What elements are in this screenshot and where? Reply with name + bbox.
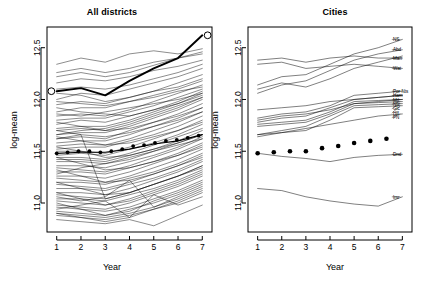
series-line bbox=[258, 114, 403, 137]
city-label: PN bbox=[393, 115, 399, 120]
median-dot bbox=[66, 150, 70, 154]
median-dot bbox=[384, 137, 389, 142]
y-tick-label: 12.5 bbox=[32, 39, 42, 56]
x-tick-label: 1 bbox=[54, 242, 59, 252]
y-axis-label-right: log-mean bbox=[210, 111, 220, 149]
median-dot bbox=[153, 141, 157, 145]
x-tick-label: 4 bbox=[127, 242, 132, 252]
y-tick-label: 11.0 bbox=[32, 195, 42, 211]
city-label: Dnd bbox=[393, 152, 402, 157]
median-dot bbox=[288, 149, 293, 154]
y-tick-label: 12.5 bbox=[233, 39, 243, 56]
x-tick-label: 6 bbox=[176, 242, 181, 252]
median-dot bbox=[131, 144, 135, 148]
series-line bbox=[258, 189, 403, 207]
median-dot bbox=[352, 141, 357, 146]
x-tick-label: 7 bbox=[200, 242, 205, 252]
plot-all-districts: 11.011.512.012.51234567 bbox=[0, 0, 224, 284]
x-tick-label: 1 bbox=[255, 242, 260, 252]
x-axis-label-left: Year bbox=[0, 262, 224, 272]
x-tick-label: 2 bbox=[79, 242, 84, 252]
median-dot bbox=[336, 144, 341, 149]
y-tick-label: 11.5 bbox=[233, 143, 243, 159]
median-dot bbox=[197, 134, 201, 138]
x-tick-label: 5 bbox=[352, 242, 357, 252]
plot-cities: NSAbdManWatPor NtsHamMtlNfcGlcHffPNDndIn… bbox=[223, 0, 447, 284]
x-tick-label: 3 bbox=[304, 242, 309, 252]
median-dot bbox=[272, 150, 277, 155]
y-tick-label: 12.0 bbox=[32, 91, 42, 108]
x-tick-label: 2 bbox=[279, 242, 284, 252]
highlight-endpoint-marker bbox=[204, 32, 211, 39]
y-tick-label: 11.0 bbox=[233, 195, 243, 211]
median-dot bbox=[98, 150, 102, 154]
series-line bbox=[258, 62, 403, 68]
median-dot bbox=[186, 136, 190, 140]
median-dot bbox=[304, 149, 309, 154]
series-line bbox=[258, 153, 403, 161]
plot-frame bbox=[47, 27, 212, 232]
plot-frame bbox=[248, 27, 412, 232]
city-label: Man bbox=[393, 56, 402, 61]
series-line bbox=[258, 56, 403, 62]
y-axis-label-left: log-mean bbox=[9, 111, 19, 149]
city-label: Wat bbox=[393, 66, 402, 71]
y-tick-label: 11.5 bbox=[32, 143, 42, 159]
panel-all-districts: All districts 11.011.512.012.51234567 lo… bbox=[0, 0, 224, 284]
series-line bbox=[57, 191, 203, 222]
x-tick-label: 7 bbox=[400, 242, 405, 252]
x-tick-label: 5 bbox=[151, 242, 156, 252]
city-label: Abd bbox=[393, 47, 402, 52]
city-label: Inv bbox=[393, 195, 400, 200]
highlight-endpoint-marker bbox=[48, 88, 55, 95]
median-dot bbox=[164, 139, 168, 143]
panel-cities: Cities NSAbdManWatPor NtsHamMtlNfcGlcHff… bbox=[223, 0, 447, 284]
series-line bbox=[258, 50, 403, 93]
x-tick-label: 6 bbox=[376, 242, 381, 252]
median-dot bbox=[120, 147, 124, 151]
series-line bbox=[258, 99, 403, 124]
median-dot bbox=[88, 149, 92, 153]
series-line bbox=[258, 56, 403, 89]
median-dot bbox=[142, 143, 146, 147]
median-dot bbox=[77, 149, 81, 153]
series-line bbox=[258, 104, 403, 135]
median-dot bbox=[109, 149, 113, 153]
x-axis-label-right: Year bbox=[223, 262, 447, 272]
series-line bbox=[258, 95, 403, 122]
figure-root: All districts 11.011.512.012.51234567 lo… bbox=[0, 0, 447, 284]
median-dot bbox=[175, 138, 179, 142]
median-dot bbox=[368, 139, 373, 144]
median-dot bbox=[255, 151, 260, 156]
median-dot bbox=[320, 146, 325, 151]
median-dot bbox=[55, 151, 59, 155]
x-tick-label: 3 bbox=[103, 242, 108, 252]
y-tick-label: 12.0 bbox=[233, 91, 243, 108]
x-tick-label: 4 bbox=[328, 242, 333, 252]
city-label: NS bbox=[393, 37, 399, 42]
series-line bbox=[57, 93, 203, 128]
